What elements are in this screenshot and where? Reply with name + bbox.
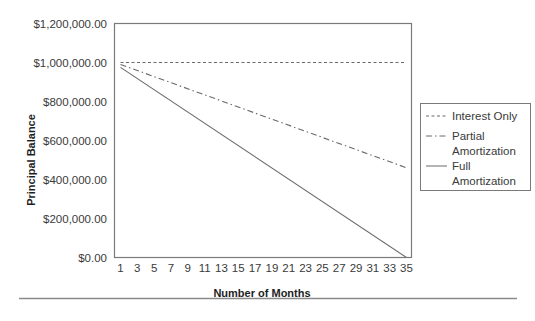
x-tick-label: 5 — [151, 262, 157, 274]
y-tick-label: $200,000.00 — [43, 213, 107, 225]
x-tick-label: 23 — [299, 262, 312, 274]
x-axis-title-label: Number of Months — [213, 287, 310, 299]
principal-balance-chart: $0.00$200,000.00$400,000.00$600,000.00$8… — [0, 0, 535, 321]
legend-label-full-line2: Amortization — [452, 175, 516, 187]
x-tick-label: 17 — [249, 262, 262, 274]
x-tick-label: 7 — [168, 262, 174, 274]
x-tick-label: 3 — [134, 262, 140, 274]
x-tick-label: 27 — [333, 262, 346, 274]
x-tick-label: 21 — [282, 262, 295, 274]
x-tick-label: 9 — [185, 262, 191, 274]
x-tick-label: 13 — [215, 262, 228, 274]
x-axis-tick-labels: 1357911131517192123252729313335 — [117, 262, 413, 274]
y-tick-label: $1,000,000.00 — [33, 57, 107, 69]
y-tick-label: $0.00 — [78, 252, 107, 264]
legend: Interest Only Partial Amortization Full … — [421, 104, 531, 191]
x-tick-label: 11 — [199, 262, 211, 274]
plot-area-frame — [115, 24, 412, 258]
y-axis-tick-labels: $0.00$200,000.00$400,000.00$600,000.00$8… — [33, 18, 107, 264]
y-tick-label: $800,000.00 — [43, 96, 107, 108]
x-tick-label: 29 — [350, 262, 363, 274]
y-tick-label: $400,000.00 — [43, 174, 107, 186]
x-tick-label: 1 — [117, 262, 123, 274]
legend-label-partial-line1: Partial — [452, 130, 485, 142]
x-tick-label: 15 — [232, 262, 245, 274]
y-tick-label: $600,000.00 — [43, 135, 107, 147]
x-tick-label: 31 — [366, 262, 379, 274]
x-tick-label: 25 — [316, 262, 329, 274]
y-axis-title: Principal Balance — [25, 114, 37, 206]
series-line-full-amortization — [121, 67, 407, 257]
legend-label-full-line1: Full — [452, 160, 471, 172]
y-tick-label: $1,200,000.00 — [33, 18, 107, 30]
x-tick-label: 33 — [383, 262, 396, 274]
series-lines — [121, 63, 407, 258]
x-tick-label: 35 — [400, 262, 413, 274]
legend-label-interest-only: Interest Only — [452, 110, 517, 122]
x-tick-label: 19 — [266, 262, 279, 274]
series-line-partial-amortization — [121, 64, 407, 167]
legend-label-partial-line2: Amortization — [452, 145, 516, 157]
